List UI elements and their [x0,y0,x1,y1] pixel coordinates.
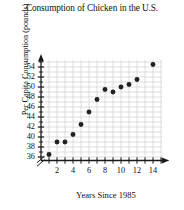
y-tick-label: 54 [19,62,35,71]
y-tick-label: 40 [19,132,35,141]
x-tick-label: 10 [114,166,128,175]
x-tick-label: 14 [146,166,160,175]
chart-figure: Consumption of Chicken in the U.S. Per C… [0,0,184,210]
x-tick-label: 12 [130,166,144,175]
x-tick-label: 8 [98,166,112,175]
y-tick-label: 42 [19,122,35,131]
y-tick-label: 38 [19,142,35,151]
y-tick-label: 48 [19,92,35,101]
data-points [47,62,156,157]
y-tick-label: 52 [19,72,35,81]
x-tick-label: 4 [66,166,80,175]
y-tick-label: 44 [19,112,35,121]
x-tick-label: 6 [82,166,96,175]
x-tick-label: 2 [50,166,64,175]
y-tick-label: 46 [19,102,35,111]
y-tick-label: 36 [19,152,35,161]
y-tick-label: 50 [19,82,35,91]
gridlines [45,60,161,161]
